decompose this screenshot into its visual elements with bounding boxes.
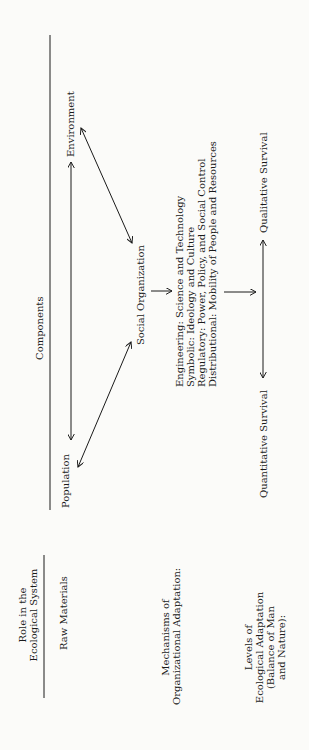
mechanisms-row-label: Mechanisms of Organizational Adaptation:: [160, 570, 182, 705]
role-label: Role in the Ecological System: [17, 565, 39, 665]
mechanisms-row-line1: Mechanisms of: [160, 570, 171, 705]
population-node: Population: [60, 454, 71, 508]
raw-materials-label: Raw Materials: [58, 576, 69, 650]
levels-row-line3: (Balance of Man: [265, 590, 276, 705]
levels-row-line4: and Nature):: [276, 590, 287, 705]
role-label-line1: Role in the: [17, 565, 28, 665]
environment-node: Environment: [65, 91, 76, 157]
levels-row-line2: Ecological Adaptation: [254, 590, 265, 705]
quantitative-survival-node: Quantitative Survival: [258, 390, 269, 498]
mechanisms-row-line2: Organizational Adaptation:: [171, 570, 182, 705]
role-label-line2: Ecological System: [28, 565, 39, 665]
mechanism-symbolic: Symbolic: Ideology and Culture: [185, 141, 196, 387]
pop-socorg-arrow: [78, 342, 131, 467]
mechanism-distributional: Distributional: Mobility of People and R…: [207, 141, 218, 387]
components-label: Components: [34, 296, 45, 360]
mechanism-regulatory: Regulatory: Power, Policy, and Social Co…: [196, 141, 207, 387]
env-socorg-arrow: [81, 128, 132, 243]
levels-row-label: Levels of Ecological Adaptation (Balance…: [243, 590, 287, 705]
levels-row-line1: Levels of: [243, 590, 254, 705]
qualitative-survival-node: Qualitative Survival: [258, 132, 269, 233]
social-organization-node: Social Organization: [135, 245, 146, 345]
mechanism-engineering: Engineering: Science and Technology: [174, 141, 185, 387]
mechanisms-list: Engineering: Science and Technology Symb…: [174, 141, 218, 387]
